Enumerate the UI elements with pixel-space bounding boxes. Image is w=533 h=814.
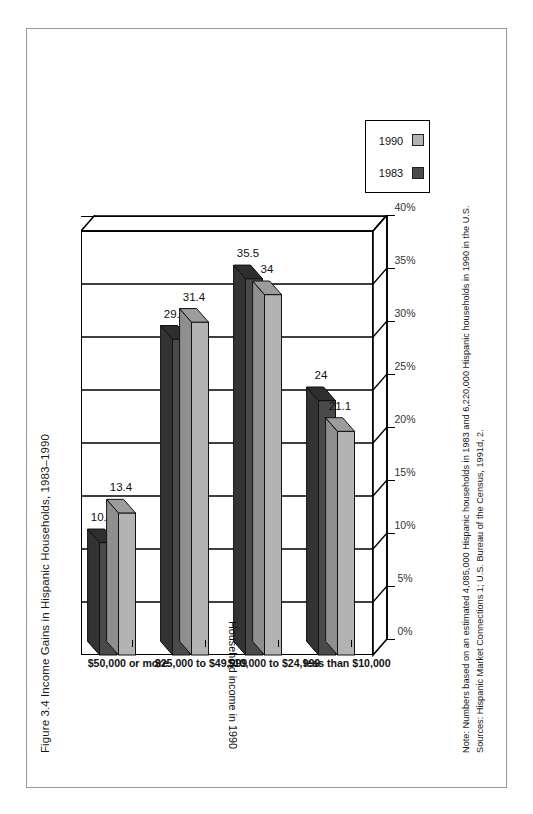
bar-chart: 0%5%10%15%20%25%30%35%40% 10.613.429.831…: [81, 215, 411, 685]
y-axis-line: [81, 216, 387, 217]
y-axis-tick: [387, 480, 395, 481]
figure-title: Figure 3.4 Income Gains in Hispanic Hous…: [39, 434, 51, 753]
category-tick: [132, 640, 133, 647]
bar-value-label: 34: [261, 263, 274, 275]
bar-value-label: 24: [315, 369, 328, 381]
legend-swatch-1990: [412, 134, 424, 146]
y-axis-tick-label: 30%: [394, 307, 415, 319]
y-axis-tick-label: 40%: [394, 201, 415, 213]
legend-item-1990: 1990: [371, 128, 424, 152]
y-axis-tick: [387, 427, 395, 428]
bar-value-label: 13.4: [110, 481, 132, 493]
y-axis-tick-label: 35%: [394, 254, 415, 266]
y-axis-tick-label: 15%: [394, 466, 415, 478]
y-axis-tick: [387, 268, 395, 269]
bar-value-label: 10.6: [91, 511, 113, 523]
y-axis-tick-label: 25%: [394, 360, 415, 372]
bar-value-label: 31.4: [183, 291, 205, 303]
y-axis-tick: [387, 586, 395, 587]
y-axis-tick-label: 5%: [397, 572, 412, 584]
legend-item-1983: 1983: [371, 161, 424, 185]
y-axis-tick: [387, 533, 395, 534]
category-tick: [205, 640, 206, 647]
legend-label-1983: 1983: [379, 167, 403, 179]
y-axis-tick: [387, 639, 395, 640]
chart-legend: 1983 1990: [365, 120, 430, 193]
legend-swatch-1983: [412, 167, 424, 179]
legend-label-1990: 1990: [379, 134, 403, 146]
x-axis-title: Household income in 1990: [227, 575, 239, 795]
y-axis-tick-label: 0%: [397, 625, 412, 637]
category-tick: [351, 640, 352, 647]
bar-value-label: 35.5: [237, 247, 259, 259]
y-axis-tick-label: 10%: [394, 519, 415, 531]
y-axis-tick: [387, 321, 395, 322]
sources-line: Sources: Hispanic Market Connections 1; …: [473, 53, 487, 753]
y-axis-tick: [387, 374, 395, 375]
figure-frame: Figure 3.4 Income Gains in Hispanic Hous…: [26, 28, 507, 788]
bar-value-label: 21.1: [329, 400, 351, 412]
category-tick: [278, 640, 279, 647]
y-axis-tick: [387, 215, 395, 216]
rotated-figure-stage: Figure 3.4 Income Gains in Hispanic Hous…: [27, 29, 508, 789]
y-axis-tick-label: 20%: [394, 413, 415, 425]
category-label: less than $10,000: [303, 657, 390, 669]
note-line: Note: Numbers based on an estimated 4,08…: [459, 53, 473, 753]
bar-value-label: 29.8: [164, 308, 186, 320]
figure-notes: Note: Numbers based on an estimated 4,08…: [459, 53, 488, 753]
